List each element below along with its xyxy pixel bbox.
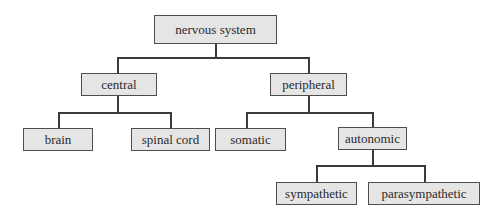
connector-root-down	[215, 43, 217, 57]
node-central: central	[81, 73, 157, 96]
node-sympathetic: sympathetic	[276, 182, 357, 205]
connector-level1-horizontal	[117, 57, 309, 59]
connector-central-horizontal	[58, 112, 170, 114]
node-spinal-cord: spinal cord	[131, 128, 210, 151]
connector-to-autonomic	[372, 112, 374, 127]
node-autonomic: autonomic	[338, 127, 407, 150]
connector-peripheral-horizontal	[246, 112, 372, 114]
connector-peripheral-down	[308, 95, 310, 112]
connector-central-down	[117, 95, 119, 112]
node-peripheral: peripheral	[270, 73, 347, 96]
node-nervous-system: nervous system	[154, 15, 277, 44]
connector-to-central	[117, 57, 119, 73]
node-brain: brain	[23, 128, 93, 151]
connector-to-somatic	[246, 112, 248, 128]
connector-to-spinal-cord	[170, 112, 172, 128]
connector-autonomic-down	[372, 149, 374, 165]
node-parasympathetic: parasympathetic	[368, 182, 480, 205]
connector-to-peripheral	[308, 57, 310, 73]
connector-to-brain	[58, 112, 60, 128]
connector-to-sympathetic	[316, 165, 318, 182]
connector-to-parasympathetic	[424, 165, 426, 182]
node-somatic: somatic	[215, 128, 286, 151]
connector-autonomic-horizontal	[316, 165, 425, 167]
